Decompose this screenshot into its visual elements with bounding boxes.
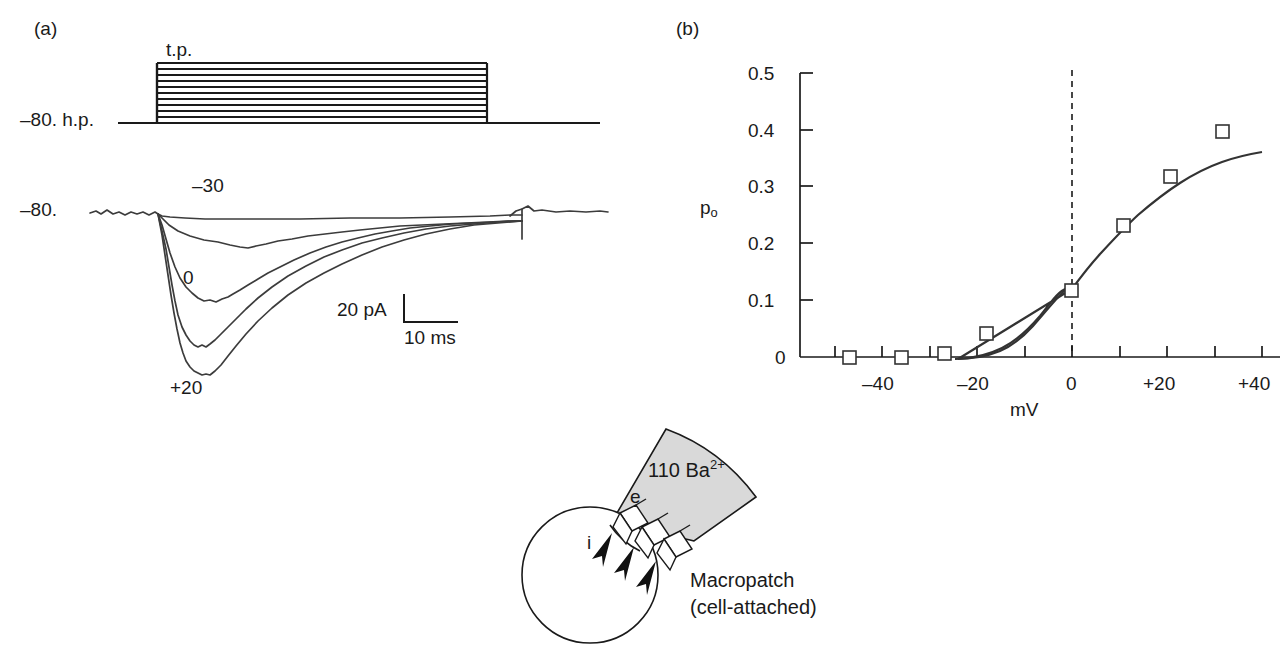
macropatch-diagram: [470, 415, 890, 645]
data-point-markers: [843, 125, 1229, 364]
pulse-step-stack: [157, 63, 487, 123]
diagram-caption-line2: (cell-attached): [690, 597, 817, 617]
data-point: [895, 351, 908, 364]
ytick-label-4: 0.4: [748, 121, 774, 140]
diagram-caption-line1: Macropatch: [690, 570, 795, 590]
ytick-label-5: 0.5: [748, 64, 774, 83]
data-point: [1117, 219, 1130, 232]
trace-minus30: [158, 214, 522, 219]
boltzmann-fit-curve: [958, 288, 1072, 359]
y-axis-label: po: [700, 198, 718, 217]
external-side-label: e: [630, 487, 641, 506]
scale-bar: [400, 294, 470, 328]
internal-side-label: i: [587, 533, 591, 552]
data-point: [1065, 284, 1078, 297]
y-axis-label-subscript: o: [711, 205, 718, 220]
scalebar-time-label: 10 ms: [404, 328, 456, 347]
pulse-rising-edge: [118, 63, 157, 123]
po-voltage-plot: [780, 60, 1284, 380]
ytick-label-1: 0.1: [748, 291, 774, 310]
trace-zero: [158, 214, 522, 302]
y-axis-label-text: p: [700, 197, 711, 218]
solution-label: 110 Ba2+: [648, 458, 725, 480]
data-point: [1216, 125, 1229, 138]
data-point: [938, 347, 951, 360]
boltzmann-fit: [955, 152, 1262, 359]
x-axis-label: mV: [1010, 400, 1039, 419]
baseline-noise: [90, 210, 158, 215]
current-traces-plot: [70, 195, 610, 395]
data-point: [980, 327, 993, 340]
data-point: [843, 351, 856, 364]
post-pulse-baseline: [510, 206, 608, 216]
current-baseline-label: –80.: [20, 200, 57, 219]
scalebar-current-label: 20 pA: [337, 300, 387, 319]
solution-charge: 2+: [710, 457, 725, 472]
ytick-label-3: 0.3: [748, 177, 774, 196]
ytick-label-2: 0.2: [748, 234, 774, 253]
panel-b-tag: (b): [676, 18, 699, 40]
panel-a-tag: (a): [34, 18, 57, 40]
trace-label-minus30: –30: [192, 176, 224, 195]
y-axis-ticks: [800, 73, 813, 300]
solution-label-text: 110 Ba: [648, 459, 710, 481]
voltage-protocol-plot: [0, 55, 620, 145]
data-point: [1164, 170, 1177, 183]
